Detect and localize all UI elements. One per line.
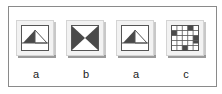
label-b: b xyxy=(66,68,106,80)
label-a-1: a xyxy=(16,68,56,80)
hourglass-bowtie-icon xyxy=(71,25,99,51)
triangle-mountain-icon xyxy=(121,25,149,51)
label-a-2: a xyxy=(116,68,156,80)
label-c: c xyxy=(166,68,206,80)
tile-c xyxy=(166,20,206,58)
triangle-mountain-icon xyxy=(21,25,49,51)
tile-a-1 xyxy=(16,20,56,58)
tile-b xyxy=(66,20,106,58)
tile-a-2 xyxy=(116,20,156,58)
checker-grid-icon xyxy=(171,25,199,51)
